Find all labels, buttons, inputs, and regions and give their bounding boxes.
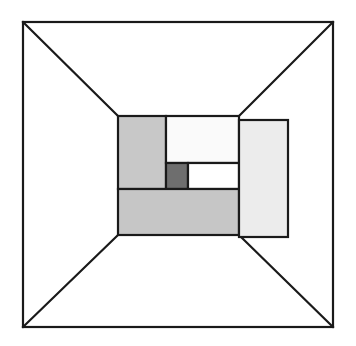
block-dark-square: Dark gray square bbox=[166, 163, 188, 189]
block-bottom-gray: Bottom medium-gray panel bbox=[118, 189, 239, 235]
block-right-pale: Right pale panel bbox=[239, 120, 288, 237]
block-mid-white: Middle white panel bbox=[188, 163, 239, 189]
perspective-box-figure: Perspective box with inset rectangular s… bbox=[0, 0, 356, 346]
block-top-white: Top white panel bbox=[166, 116, 239, 163]
block-left-gray: Left medium-gray panel bbox=[118, 116, 166, 189]
inner-blocks-group: Left medium-gray panelTop white panelDar… bbox=[118, 116, 288, 237]
figure-root: Perspective box with inset rectangular s… bbox=[0, 0, 356, 346]
